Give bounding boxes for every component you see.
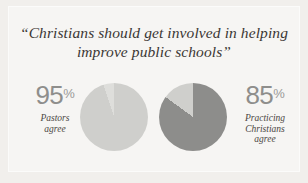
chart-title: “Christians should get involved in helpi… <box>16 24 292 61</box>
stat-block-practicing-christians: 85% Practicing Christians agree <box>228 82 302 145</box>
stat-number-pastors: 95 <box>35 82 63 108</box>
chart-title-line-1: “Christians should get involved in helpi… <box>16 24 292 43</box>
chart-title-line-2: improve public schools” <box>16 43 292 62</box>
stat-label-practicing-christians-line-2: Christians <box>228 124 302 135</box>
infographic-figure: “Christians should get involved in helpi… <box>0 0 308 183</box>
stat-value-practicing-christians: 85% <box>228 82 302 108</box>
stat-percent-sign-practicing-christians: % <box>273 86 284 101</box>
stat-label-practicing-christians: Practicing Christians agree <box>228 113 302 145</box>
pie-chart-pastors <box>80 83 148 151</box>
stat-label-practicing-christians-line-1: Practicing <box>228 113 302 124</box>
stat-value-pastors: 95% <box>18 82 92 108</box>
stat-label-practicing-christians-line-3: agree <box>228 134 302 145</box>
stat-percent-sign-pastors: % <box>63 86 74 101</box>
pie-chart-practicing-christians <box>159 83 227 151</box>
stat-number-practicing-christians: 85 <box>245 82 273 108</box>
